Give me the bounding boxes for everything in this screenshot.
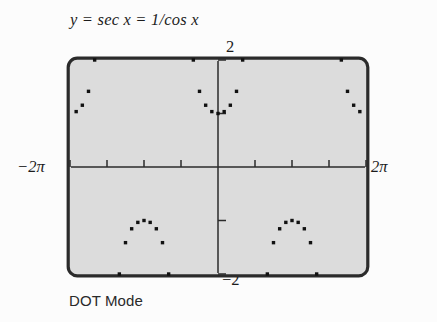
plot-dot bbox=[124, 241, 127, 244]
plot-dot bbox=[346, 90, 349, 93]
plot-dot bbox=[210, 110, 213, 113]
plot-dot bbox=[81, 104, 84, 107]
plot-dot bbox=[216, 112, 219, 115]
plot-dot bbox=[130, 227, 133, 230]
plot-dot bbox=[136, 221, 139, 224]
plot-dot bbox=[87, 90, 90, 93]
figure-container: y = sec x = 1/cos x 2 −2 −2π 2π DOT Mode bbox=[0, 0, 437, 322]
plot-dot bbox=[278, 227, 281, 230]
plot-dot bbox=[352, 104, 355, 107]
plot-dot bbox=[142, 219, 145, 222]
figure-title: y = sec x = 1/cos x bbox=[70, 10, 199, 30]
plot-dot bbox=[167, 272, 170, 275]
plot-dot bbox=[358, 110, 361, 113]
plot-dot bbox=[241, 58, 244, 61]
plot-dot bbox=[290, 219, 293, 222]
mode-caption: DOT Mode bbox=[69, 292, 143, 309]
plot-dot bbox=[315, 272, 318, 275]
calculator-screen bbox=[66, 56, 370, 278]
plot-dot bbox=[148, 221, 151, 224]
plot-dot bbox=[340, 58, 343, 61]
plot-dot bbox=[266, 272, 269, 275]
plot-dot bbox=[192, 58, 195, 61]
plot-dot bbox=[161, 241, 164, 244]
plot-dot bbox=[272, 241, 275, 244]
x-axis-min-label: −2π bbox=[17, 157, 45, 177]
plot-dot bbox=[198, 90, 201, 93]
plot-dot bbox=[118, 272, 121, 275]
plot-dot bbox=[229, 104, 232, 107]
plot-dot bbox=[284, 221, 287, 224]
x-axis-max-label: 2π bbox=[371, 157, 388, 177]
graph-canvas bbox=[66, 56, 370, 278]
plot-dot bbox=[93, 58, 96, 61]
plot-dot bbox=[74, 110, 77, 113]
plot-dot bbox=[155, 227, 158, 230]
plot-dot bbox=[296, 221, 299, 224]
plot-dot bbox=[309, 241, 312, 244]
plot-dot bbox=[303, 227, 306, 230]
plot-dot bbox=[204, 104, 207, 107]
y-axis-max-label: 2 bbox=[226, 37, 234, 57]
plot-dot bbox=[222, 110, 225, 113]
plot-dot bbox=[235, 90, 238, 93]
